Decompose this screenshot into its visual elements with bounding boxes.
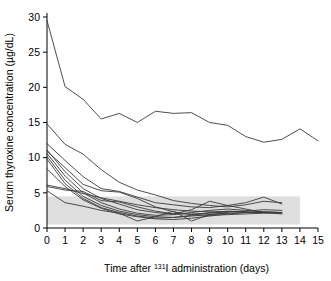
x-tick-label-0: 0	[44, 234, 50, 246]
y-axis-title: Serum thyroxine concentration (µg/dL)	[3, 33, 15, 212]
series-line-patient-2	[47, 124, 282, 207]
x-tick-label-3: 3	[98, 234, 104, 246]
x-tick-label-14: 14	[294, 234, 306, 246]
x-tick-label-2: 2	[80, 234, 86, 246]
x-tick-label-10: 10	[222, 234, 234, 246]
x-tick-label-9: 9	[207, 234, 213, 246]
x-tick-label-13: 13	[276, 234, 288, 246]
y-tick-label-0: 0	[34, 222, 40, 234]
x-tick-label-15: 15	[312, 234, 324, 246]
y-tick-label-5: 5	[34, 187, 40, 199]
x-tick-label-8: 8	[189, 234, 195, 246]
x-axis-title: Time after 131I administration (days)	[104, 262, 269, 274]
series-line-patient-1	[47, 21, 318, 143]
x-tick-label-5: 5	[134, 234, 140, 246]
y-tick-label-30: 30	[28, 11, 40, 23]
thyroxine-line-chart: 0510152025300123456789101112131415Time a…	[0, 0, 331, 281]
chart-canvas: 0510152025300123456789101112131415Time a…	[0, 0, 331, 281]
x-tick-label-11: 11	[240, 234, 251, 246]
y-tick-label-20: 20	[28, 81, 40, 93]
x-tick-label-6: 6	[152, 234, 158, 246]
x-tick-label-7: 7	[171, 234, 177, 246]
y-tick-label-10: 10	[28, 151, 40, 163]
x-tick-label-1: 1	[62, 234, 68, 246]
y-tick-label-15: 15	[28, 116, 40, 128]
x-tick-label-12: 12	[258, 234, 270, 246]
y-tick-label-25: 25	[28, 46, 40, 58]
x-tick-label-4: 4	[116, 234, 122, 246]
